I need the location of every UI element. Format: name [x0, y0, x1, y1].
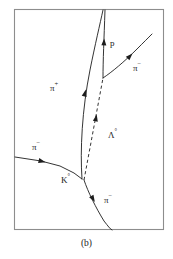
particle-tracks	[15, 10, 152, 230]
particle-charge: −	[37, 139, 41, 146]
particle-charge: °	[115, 127, 118, 134]
particle-symbol: π	[50, 83, 55, 93]
label-pi-minus-incoming: π−	[32, 143, 40, 152]
direction-arrows	[38, 38, 134, 203]
particle-charge: +	[55, 80, 59, 87]
proton-track-arrow-icon	[101, 38, 106, 45]
label-lambda-zero: Λ°	[108, 131, 117, 140]
label-k-zero: K°	[61, 176, 70, 185]
chamber-frame	[15, 10, 164, 230]
lambda-zero-track	[84, 78, 103, 180]
label-pi-minus-upper-right: π−	[133, 64, 141, 73]
pi-minus-incoming-track-arrow-icon	[38, 158, 46, 165]
label-pi-plus: π+	[50, 84, 58, 93]
particle-symbol: π	[32, 142, 37, 152]
particle-symbol: π	[104, 195, 109, 205]
particle-symbol: K	[61, 175, 68, 185]
event-diagram-svg	[0, 0, 173, 259]
particle-charge: −	[109, 192, 113, 199]
label-pi-minus-lower: π−	[104, 196, 112, 205]
label-proton: p	[110, 39, 115, 48]
particle-symbol: p	[110, 38, 115, 48]
particle-charge: °	[68, 172, 71, 179]
figure-caption: (b)	[0, 238, 173, 248]
pi-plus-track-arrow-icon	[82, 89, 89, 97]
particle-symbol: Λ	[108, 130, 115, 140]
pi-minus-lower-track	[84, 180, 112, 230]
pi-minus-incoming-track	[15, 157, 82, 179]
particle-symbol: π	[133, 63, 138, 73]
particle-charge: −	[138, 60, 142, 67]
bubble-chamber-figure: π+ π− π− π− p Λ° K° (b)	[0, 0, 173, 259]
